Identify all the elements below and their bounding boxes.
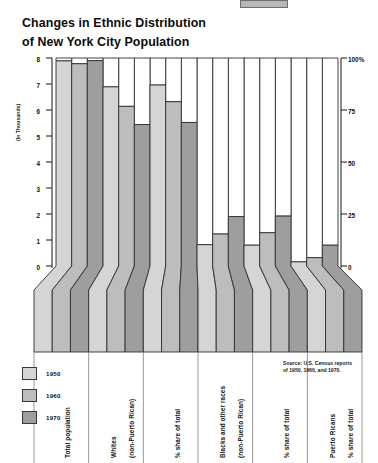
legend-swatch-1960: [22, 389, 37, 402]
bar-headroom-1960-cat2: [119, 58, 135, 106]
legend-label-1960: 1960: [46, 392, 61, 399]
category-label-puerto-ricans-share-line-1: Puerto Ricans: [329, 414, 336, 458]
category-label-total-population: Total population: [64, 407, 71, 458]
category-label-puerto-ricans-share-line-2: % share of total: [347, 409, 354, 458]
bar-headroom-1970-cat3: [181, 58, 197, 122]
legend-item-1960: 1960: [22, 386, 61, 404]
bar-headroom-1960-cat1: [72, 58, 88, 64]
bar-series-group: [34, 58, 362, 352]
bar-headroom-1950-cat3: [150, 58, 166, 85]
bar-headroom-1970-cat6: [322, 58, 338, 245]
legend-label-1970: 1970: [46, 414, 61, 421]
bar-headroom-1970-cat5: [275, 58, 291, 216]
legend-item-1970: 1970: [22, 408, 61, 426]
chart-figure: Changes in Ethnic Distribution of New Yo…: [0, 0, 378, 463]
bar-headroom-1960-cat4: [213, 58, 229, 234]
legend-item-1950: 1950: [22, 364, 61, 382]
bar-headroom-1960-cat5: [260, 58, 276, 233]
category-label-blacks-other-share: % share of total: [283, 409, 290, 458]
category-label-whites-count-line-2: (non-Puerto Rican): [128, 399, 135, 458]
bar-headroom-1970-cat4: [228, 58, 244, 217]
category-label-blacks-other-count-line-2: (non-Puerto Rican): [237, 399, 244, 458]
legend-label-1950: 1950: [46, 370, 61, 377]
legend-swatch-1970: [22, 411, 37, 424]
source-note: Source: U.S. Census reports of 1950, 196…: [283, 360, 358, 373]
bar-headroom-1950-cat2: [103, 58, 119, 87]
bar-1970-cat3: [180, 122, 198, 352]
bar-headroom-1950-cat6: [291, 58, 307, 262]
bar-headroom-1960-cat6: [307, 58, 323, 258]
legend-swatch-1950: [22, 367, 37, 380]
category-label-whites-share: % share of total: [174, 409, 181, 458]
legend: 1950 1960 1970: [22, 364, 61, 430]
bar-headroom-1950-cat5: [244, 58, 260, 245]
bar-headroom-1970-cat2: [134, 58, 150, 125]
category-label-blacks-other-count-line-1: Blacks and other races: [219, 386, 226, 458]
bar-headroom-1960-cat3: [166, 58, 182, 102]
category-label-whites-count-line-1: Whites: [110, 436, 117, 458]
bar-headroom-1950-cat4: [197, 58, 213, 245]
